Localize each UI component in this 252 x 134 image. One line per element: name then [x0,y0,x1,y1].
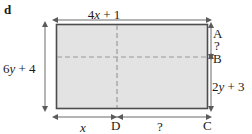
bottom-left-segment-label: x [80,121,86,134]
bottom-right-segment-label: ? [157,120,163,133]
geometry-figure: d 4x + 1 6y + 4 2y + 3 A ? B x D ? C [0,0,252,134]
part-letter-label: d [4,3,11,16]
vertex-label-c: C [203,119,212,132]
left-height-label: 6y + 4 [3,62,36,75]
vertex-label-b: B [213,52,222,65]
vertex-label-d: D [111,119,120,132]
right-lower-height-label: 2y + 3 [212,80,245,93]
main-rectangle [57,25,208,109]
top-width-label: 4x + 1 [88,8,121,21]
figure-canvas [0,0,252,134]
